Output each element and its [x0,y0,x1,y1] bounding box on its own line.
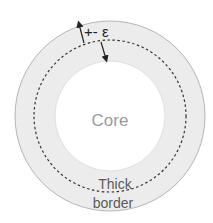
border-label-line2: border [93,195,134,211]
thick-border-diagram: +- ε Core Thick border [0,0,213,223]
epsilon-label: +- ε [84,23,109,40]
core-label: Core [92,111,129,130]
border-label-line1: Thick [98,176,132,192]
